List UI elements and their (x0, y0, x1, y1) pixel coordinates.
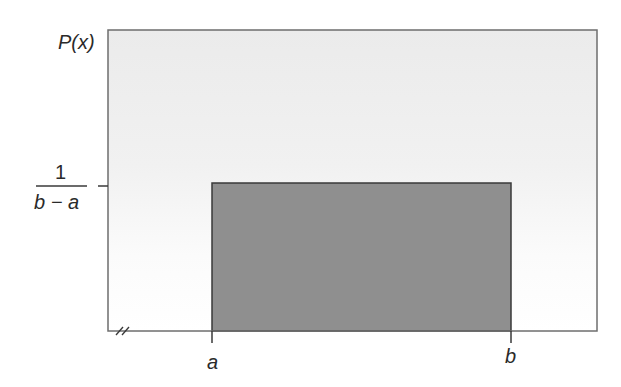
x-tick-label-b: b (505, 346, 516, 366)
y-axis-label: P(x) (58, 32, 95, 52)
uniform-distribution-plot (0, 0, 621, 387)
y-tick-denominator: b − a (34, 192, 79, 212)
density-rectangle (212, 183, 511, 331)
y-tick-numerator: 1 (55, 162, 66, 182)
x-tick-label-a: a (207, 352, 218, 372)
